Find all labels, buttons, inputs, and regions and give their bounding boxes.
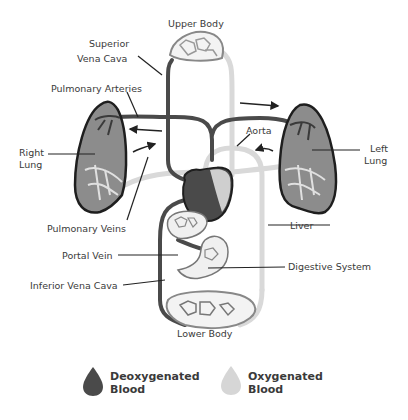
label-pulmonary-veins: Pulmonary Veins <box>47 223 126 234</box>
oxygenated-drop-icon <box>221 366 241 395</box>
upper-body-capillaries <box>170 32 223 61</box>
left-lung <box>280 104 337 213</box>
circulation-diagram: Upper Body Superior Vena Cava Pulmonary … <box>0 0 408 420</box>
right-lung <box>75 102 126 213</box>
label-digestive-system: Digestive System <box>288 261 371 272</box>
label-liver: Liver <box>290 220 313 231</box>
legend-oxygenated-2: Blood <box>248 383 283 396</box>
label-superior-vena-cava-1: Superior <box>89 38 129 49</box>
legend-deoxygenated-2: Blood <box>110 383 145 396</box>
lower-body-capillaries <box>167 291 256 328</box>
label-pulmonary-arteries: Pulmonary Arteries <box>51 83 142 94</box>
deoxygenated-drop-icon <box>83 367 103 396</box>
legend-oxygenated-1: Oxygenated <box>248 370 323 383</box>
label-superior-vena-cava-2: Vena Cava <box>77 53 127 64</box>
legend: Deoxygenated Blood Oxygenated Blood <box>83 366 323 396</box>
legend-deoxygenated-1: Deoxygenated <box>110 370 200 383</box>
label-inferior-vena-cava: Inferior Vena Cava <box>30 280 118 291</box>
label-right-lung-1: Right <box>19 147 44 158</box>
label-lower-body: Lower Body <box>177 328 233 339</box>
label-right-lung-2: Lung <box>19 159 42 170</box>
label-left-lung-2: Lung <box>364 155 387 166</box>
label-aorta: Aorta <box>246 125 272 136</box>
liver <box>167 211 206 238</box>
label-portal-vein: Portal Vein <box>62 250 113 261</box>
label-upper-body: Upper Body <box>168 18 224 29</box>
label-left-lung-1: Left <box>370 143 388 154</box>
